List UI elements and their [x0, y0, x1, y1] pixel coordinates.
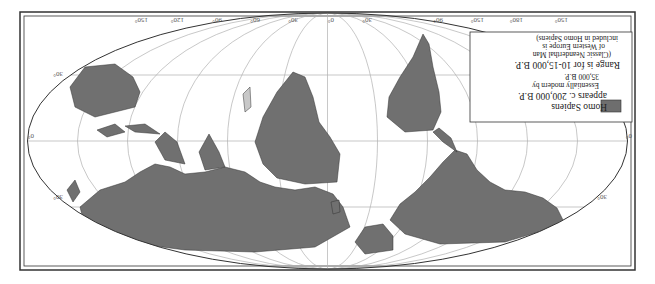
- southeast-asia: [155, 132, 185, 164]
- legend-title: Homo Sapiens: [551, 102, 607, 112]
- lon-label: 0°: [328, 16, 335, 24]
- australia: [70, 64, 140, 117]
- lon-label: 30°: [362, 16, 372, 24]
- legend-line: included in Homo Sapiens): [536, 34, 618, 43]
- lon-label: 30°: [288, 16, 298, 24]
- lon-label: 180°: [510, 16, 524, 24]
- lat-label: 30°: [53, 70, 63, 78]
- greenland: [355, 224, 393, 254]
- legend: Homo Sapiens appears c. 200,000 B.P. Ess…: [470, 32, 632, 122]
- lon-label: 150°: [135, 16, 149, 24]
- lat-label: 30°: [597, 193, 607, 201]
- lon-label: 120°: [171, 16, 185, 24]
- lon-label: 150°: [555, 16, 569, 24]
- south-america: [387, 34, 441, 132]
- japan: [67, 180, 80, 202]
- lon-label: 60°: [250, 16, 260, 24]
- india: [199, 134, 225, 170]
- central-america: [433, 128, 457, 152]
- longitude-labels: 150° 120° 90° 60° 30° 0° 30° 90° 150° 18…: [135, 16, 569, 24]
- legend-line: appears c. 200,000 B.P.: [518, 91, 607, 101]
- lon-label: 90°: [212, 16, 222, 24]
- legend-line: Range is for 10-15,000 B.P.: [515, 60, 620, 70]
- lat-label: 0°: [626, 132, 633, 140]
- legend-line: 35,000 B.P.: [564, 72, 599, 81]
- world-map-figure: 150° 120° 90° 60° 30° 0° 30° 90° 150° 18…: [0, 0, 655, 284]
- north-america: [390, 150, 565, 244]
- indonesia-1: [125, 124, 160, 134]
- legend-line: Essentially modern by: [532, 81, 599, 90]
- lon-label: 90°: [433, 16, 443, 24]
- indonesia-2: [97, 124, 125, 137]
- lat-label: 0°: [28, 132, 35, 140]
- lat-label: 30°: [53, 193, 63, 201]
- lon-label: 150°: [471, 16, 485, 24]
- madagascar: [243, 87, 251, 112]
